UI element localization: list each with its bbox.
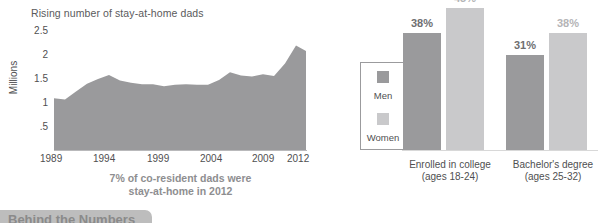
bar-group-label-bachelors-line1: Bachelor's degree bbox=[500, 159, 602, 171]
x-tick-1994: 1994 bbox=[93, 153, 115, 164]
area-chart-caption-line2: stay-at-home in 2012 bbox=[54, 185, 307, 198]
x-tick-1999: 1999 bbox=[147, 153, 169, 164]
bar-group-label-bachelors: Bachelor's degree (ages 25-32) bbox=[500, 159, 602, 183]
bar-group-label-enrolled: Enrolled in college (ages 18-24) bbox=[397, 159, 503, 183]
area-chart-x-axis-line bbox=[54, 150, 307, 151]
bar-bachelors-women: 38% bbox=[549, 33, 587, 150]
area-chart-title: Rising number of stay-at-home dads bbox=[31, 7, 204, 19]
bar-value-enrolled-women: 45% bbox=[454, 0, 476, 4]
bar-bachelors-men: 31% bbox=[506, 55, 544, 150]
area-chart-plot bbox=[54, 30, 307, 150]
bottom-banner-text: Behind the Numbers bbox=[8, 212, 135, 223]
bar-group-label-enrolled-line2: (ages 18-24) bbox=[397, 171, 503, 183]
legend-label-men: Men bbox=[374, 90, 392, 101]
y-tick-1-5: 1.5 bbox=[24, 74, 48, 84]
y-tick-0-5: .5 bbox=[24, 122, 48, 132]
bar-enrolled-men: 38% bbox=[403, 33, 441, 150]
y-tick-2: 2 bbox=[24, 50, 48, 60]
legend-swatch-women-icon bbox=[377, 113, 389, 125]
x-tick-2009: 2009 bbox=[252, 153, 274, 164]
x-tick-1989: 1989 bbox=[40, 153, 62, 164]
x-tick-2012: 2012 bbox=[287, 153, 309, 164]
bar-chart-baseline bbox=[402, 150, 598, 151]
area-chart-caption-line1: 7% of co-resident dads were bbox=[54, 172, 307, 185]
area-chart-panel: Rising number of stay-at-home dads Milli… bbox=[0, 0, 330, 223]
bottom-banner: Behind the Numbers bbox=[0, 210, 152, 223]
y-tick-2-5: 2.5 bbox=[24, 26, 48, 36]
area-chart-svg bbox=[54, 30, 307, 150]
area-chart-y-ticks: 2.5 2 1.5 1 .5 bbox=[22, 0, 48, 223]
bar-value-enrolled-men: 38% bbox=[411, 17, 433, 29]
area-chart-caption: 7% of co-resident dads were stay-at-home… bbox=[54, 172, 307, 197]
y-tick-1: 1 bbox=[24, 98, 48, 108]
bar-group-label-enrolled-line1: Enrolled in college bbox=[397, 159, 503, 171]
bar-group-label-bachelors-line2: (ages 25-32) bbox=[500, 171, 602, 183]
legend-swatch-men-icon bbox=[377, 71, 389, 83]
bar-value-bachelors-men: 31% bbox=[514, 39, 536, 51]
x-tick-2004: 2004 bbox=[200, 153, 222, 164]
area-series-men bbox=[54, 45, 306, 150]
infographic-root: Rising number of stay-at-home dads Milli… bbox=[0, 0, 602, 223]
bar-enrolled-women: 45% bbox=[446, 8, 484, 150]
legend-label-women: Women bbox=[367, 132, 400, 143]
bar-chart-panel: 38% 45% Enrolled in college (ages 18-24)… bbox=[398, 0, 602, 223]
area-chart-y-axis-label: Millions bbox=[8, 48, 19, 108]
bar-value-bachelors-women: 38% bbox=[557, 17, 579, 29]
